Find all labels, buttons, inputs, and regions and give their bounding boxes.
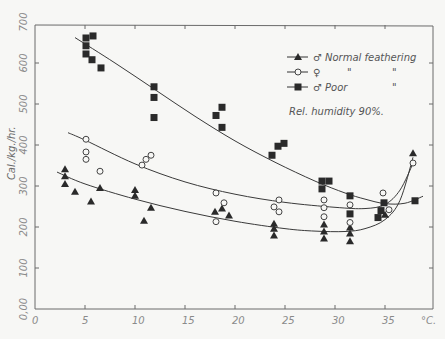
legend-ditto: " (392, 67, 397, 78)
circle-marker (271, 204, 277, 210)
triangle-marker (61, 172, 69, 179)
square-marker (412, 197, 419, 204)
x-axis-title: °C. (421, 315, 436, 326)
square-marker (213, 112, 220, 119)
legend-label: Normal feathering (325, 52, 416, 63)
square-marker (83, 34, 90, 41)
x-tick-label: 20 (232, 315, 245, 326)
fit-curves (57, 38, 423, 232)
circle-marker (410, 160, 416, 166)
x-tick-label: 35 (382, 315, 395, 326)
x-tick-label: 30 (332, 315, 345, 326)
circle-marker (83, 136, 89, 142)
circle-marker (148, 152, 154, 158)
triangle-marker (87, 198, 95, 205)
square-marker (378, 207, 385, 214)
circle-marker (139, 162, 145, 168)
square-marker (90, 32, 97, 39)
circle-marker (97, 168, 103, 174)
y-tick-label: 100 (18, 258, 29, 277)
y-tick-label: 200 (18, 217, 29, 236)
square-marker (275, 143, 282, 150)
triangle-marker (225, 212, 233, 219)
circle-marker (380, 190, 386, 196)
square-marker (219, 104, 226, 111)
x-tick-label: 25 (282, 315, 295, 326)
legend-label: Poor (325, 82, 348, 93)
triangle-marker (270, 232, 278, 239)
square-marker (319, 178, 326, 185)
y-tick-label: 700 (18, 12, 29, 31)
triangle-marker (320, 234, 328, 241)
female-symbol-icon: ♀ (313, 67, 320, 78)
square-marker (83, 42, 90, 49)
circle-marker (221, 200, 227, 206)
legend-label: " (347, 67, 352, 78)
x-tick-label: 10 (132, 315, 145, 326)
circle-marker (347, 219, 353, 225)
triangle-marker (147, 204, 155, 211)
square-marker (269, 152, 276, 159)
square-marker (83, 50, 90, 57)
triangle-marker (409, 149, 417, 156)
legend-square-marker (295, 84, 302, 91)
triangle-marker (61, 165, 69, 172)
triangle-marker (211, 208, 219, 215)
circle-marker (321, 205, 327, 211)
y-tick-label: 300 (18, 176, 29, 195)
square-marker (375, 214, 382, 221)
square-marker (151, 83, 158, 90)
plot-frame (35, 25, 433, 309)
chart-canvas: 05101520253035°C.0,001002003004005006007… (0, 0, 445, 339)
triangle-marker (71, 188, 79, 195)
circle-marker (83, 149, 89, 155)
circle-marker (276, 197, 282, 203)
square-marker (89, 56, 96, 63)
y-axis-title: Cal./kg./hr. (6, 126, 17, 180)
circle-marker (321, 197, 327, 203)
square-marker (347, 192, 354, 199)
circle-marker (213, 219, 219, 225)
square-marker (319, 185, 326, 192)
square-marker (281, 140, 288, 147)
x-tick-label: 0 (32, 315, 38, 326)
square-marker (347, 210, 354, 217)
square-marker (326, 178, 333, 185)
data-points (61, 32, 419, 244)
square-marker (219, 124, 226, 131)
circle-marker (347, 202, 353, 208)
y-tick-label: 600 (18, 53, 29, 72)
legend: ♂Normal feathering♀""♂Poor"Rel. humidity… (287, 52, 416, 117)
male-symbol-icon: ♂ (313, 82, 322, 93)
y-tick-label: 0,00 (18, 298, 29, 320)
x-tick-label: 15 (182, 315, 195, 326)
circle-marker (213, 190, 219, 196)
circle-marker (276, 209, 282, 215)
circle-marker (386, 207, 392, 213)
square-marker (151, 114, 158, 121)
triangle-marker (346, 237, 354, 244)
male-symbol-icon: ♂ (313, 52, 322, 63)
y-tick-label: 400 (18, 135, 29, 154)
legend-circle-marker (295, 69, 301, 75)
circle-marker (143, 156, 149, 162)
circle-marker (83, 156, 89, 162)
square-marker (381, 199, 388, 206)
square-marker (151, 94, 158, 101)
humidity-annotation: Rel. humidity 90%. (289, 106, 384, 117)
x-tick-label: 5 (82, 315, 88, 326)
square-marker (98, 64, 105, 71)
circle-marker (321, 214, 327, 220)
triangle-marker (320, 221, 328, 228)
triangle-marker (61, 180, 69, 187)
y-tick-label: 500 (18, 94, 29, 113)
triangle-marker (140, 217, 148, 224)
legend-ditto: " (392, 82, 397, 93)
